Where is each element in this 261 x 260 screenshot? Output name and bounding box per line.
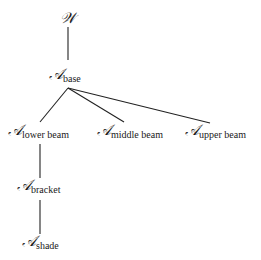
node-symbol: 𝒜 — [49, 65, 63, 83]
tree-diagram: 𝒲 𝒜base 𝒜lower beam 𝒜middle beam 𝒜upper … — [0, 0, 261, 260]
node-subscript: middle beam — [111, 129, 163, 140]
node-subscript: lower beam — [22, 129, 69, 140]
node-middle-beam: 𝒜middle beam — [97, 122, 163, 138]
edge-base-upper-beam — [68, 88, 210, 123]
node-subscript: bracket — [31, 184, 60, 195]
node-symbol: 𝒜 — [97, 121, 111, 139]
node-lower-beam: 𝒜lower beam — [8, 122, 69, 138]
node-symbol: 𝒜 — [8, 121, 22, 139]
node-bracket: 𝒜bracket — [17, 177, 60, 193]
edge-base-lower-beam — [40, 88, 68, 122]
node-symbol: 𝒲 — [60, 9, 76, 27]
node-shade: 𝒜shade — [22, 233, 59, 249]
node-base: 𝒜base — [49, 66, 81, 82]
node-symbol: 𝒜 — [185, 121, 199, 139]
node-subscript: base — [63, 73, 81, 84]
node-upper-beam: 𝒜upper beam — [185, 122, 246, 138]
node-symbol: 𝒜 — [22, 232, 36, 250]
edge-base-middle-beam — [68, 88, 124, 122]
node-subscript: upper beam — [199, 129, 246, 140]
node-symbol: 𝒜 — [17, 176, 31, 194]
node-subscript: shade — [36, 240, 59, 251]
node-w: 𝒲 — [60, 10, 76, 26]
